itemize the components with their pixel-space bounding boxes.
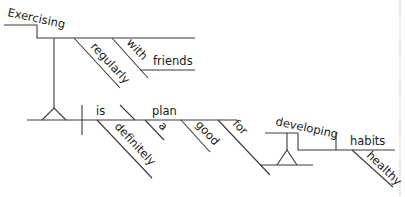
- word-a: a: [156, 118, 171, 133]
- word-is: is: [96, 104, 105, 118]
- sentence-diagram: Exercising regularly with friends is def…: [0, 0, 405, 197]
- gerund-step-line: [4, 25, 195, 38]
- pedestal-triangle: [42, 108, 66, 120]
- word-good: good: [193, 117, 223, 148]
- word-friends: friends: [153, 54, 193, 68]
- subject-gerund-phrase: Exercising regularly with friends: [4, 5, 195, 108]
- word-with: with: [124, 35, 151, 62]
- word-healthy: healthy: [364, 148, 405, 188]
- prepositional-phrase: for developing habits healthy: [218, 114, 405, 188]
- word-developing: developing: [274, 114, 339, 141]
- object-pedestal-triangle: [277, 150, 297, 165]
- main-clause: is definitely plan a good: [27, 104, 237, 178]
- word-habits: habits: [350, 134, 385, 148]
- word-plan: plan: [152, 104, 177, 118]
- complement-separator: [120, 105, 135, 120]
